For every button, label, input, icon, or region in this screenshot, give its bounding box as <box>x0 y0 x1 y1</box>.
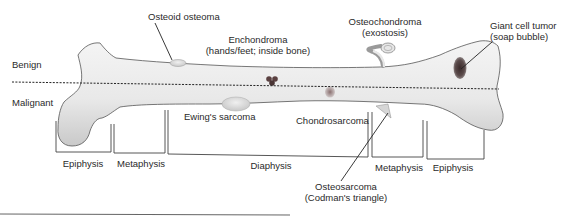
bone-shape <box>58 41 503 146</box>
malignant-zone-label: Malignant <box>12 97 54 108</box>
osteochondroma-lesion <box>368 43 395 67</box>
bracket-metaphysis-right <box>372 112 423 157</box>
enchondroma-label: Enchondroma <box>228 34 288 45</box>
osteochondroma-label: Osteochondroma <box>349 16 423 27</box>
chondrosarcoma-lesion <box>325 87 335 98</box>
region-metaphysis-left-label: Metaphysis <box>117 158 165 169</box>
giant-cell-tumor-label: Giant cell tumor <box>490 20 557 31</box>
giant-cell-tumor-detail: (soap bubble) <box>490 31 548 42</box>
region-metaphysis-right-label: Metaphysis <box>375 162 423 173</box>
ewings-sarcoma-lesion <box>222 97 250 111</box>
bone-tumor-diagram: Benign Malignant Osteoid osteoma Enchond… <box>0 0 563 216</box>
region-epiphysis-left-label: Epiphysis <box>63 158 104 169</box>
osteosarcoma-label: Osteosarcoma <box>315 181 377 192</box>
osteoid-osteoma-lesion <box>170 60 186 67</box>
osteosarcoma-lesion <box>376 104 391 118</box>
osteosarcoma-detail: (Codman's triangle) <box>305 192 388 203</box>
region-epiphysis-right-label: Epiphysis <box>433 162 474 173</box>
chondrosarcoma-label: Chondrosarcoma <box>296 115 370 126</box>
osteochondroma-detail: (exostosis) <box>362 27 408 38</box>
ewings-sarcoma-label: Ewing's sarcoma <box>184 111 256 122</box>
bracket-metaphysis-left <box>114 110 165 153</box>
osteoid-osteoma-leader <box>155 23 172 60</box>
bottom-rule <box>0 214 290 215</box>
enchondroma-detail: (hands/feet; inside bone) <box>206 45 311 56</box>
giant-cell-tumor-lesion <box>454 57 467 79</box>
benign-zone-label: Benign <box>12 59 42 70</box>
region-diaphysis-label: Diaphysis <box>250 160 291 171</box>
osteoid-osteoma-label: Osteoid osteoma <box>148 11 221 22</box>
